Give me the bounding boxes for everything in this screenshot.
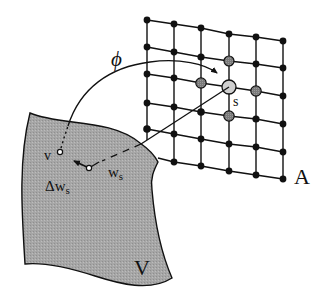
lattice-row-line <box>147 47 283 68</box>
phi-arc <box>68 61 217 126</box>
lattice-node <box>253 144 260 151</box>
lattice-node <box>198 163 205 170</box>
lattice-node <box>144 44 151 51</box>
lattice-node <box>280 93 287 100</box>
lattice-row-line <box>147 20 283 41</box>
lattice-node <box>197 108 205 116</box>
lattice-node <box>280 149 287 156</box>
neighbor-node <box>196 78 206 88</box>
lattice-node <box>253 172 260 179</box>
lattice-a <box>147 20 283 179</box>
neighbor-node <box>251 86 261 96</box>
neighbor-node <box>224 111 234 121</box>
lattice-node <box>171 75 178 82</box>
lattice-node <box>226 141 233 148</box>
lattice-node <box>253 61 260 68</box>
input-vector-v <box>57 149 62 154</box>
lattice-nodes <box>143 17 286 183</box>
lattice-node <box>144 100 151 107</box>
lattice-node <box>252 115 259 122</box>
ws-label-sub: s <box>119 170 123 182</box>
neighbor-node <box>224 56 234 66</box>
lattice-node <box>280 121 287 128</box>
v-label: v <box>44 148 51 163</box>
ws-label-base: w <box>108 164 119 180</box>
lattice-row-line <box>147 74 283 96</box>
lattice-node <box>253 34 260 41</box>
lattice-node <box>171 21 178 28</box>
lattice-node <box>197 53 204 60</box>
lattice-node <box>226 168 233 175</box>
delta-ws-label-sub: s <box>65 184 69 196</box>
delta-ws-label-base: Δw <box>45 178 66 194</box>
lattice-node <box>171 49 178 56</box>
lattice-node <box>198 25 205 32</box>
phi-label: ϕ <box>111 47 122 71</box>
lattice-node <box>226 31 233 38</box>
weight-vector-ws <box>86 165 91 170</box>
lattice-node <box>280 176 287 183</box>
lattice-node <box>280 65 287 72</box>
lattice-node <box>198 136 205 143</box>
lattice-node <box>144 71 151 78</box>
lattice-row-line <box>147 129 283 152</box>
lattice-node <box>171 131 178 138</box>
lattice-node <box>280 38 287 45</box>
lattice-row-line <box>147 103 283 124</box>
s-label: s <box>233 94 238 109</box>
lattice-node <box>144 17 151 24</box>
lattice-label-a: A <box>294 164 310 189</box>
space-label-v: V <box>134 255 150 280</box>
som-diagram: ϕ s A V v ws Δws <box>0 0 328 306</box>
lattice-node <box>143 125 151 133</box>
lattice-node <box>171 104 178 111</box>
lattice-node <box>171 159 178 166</box>
